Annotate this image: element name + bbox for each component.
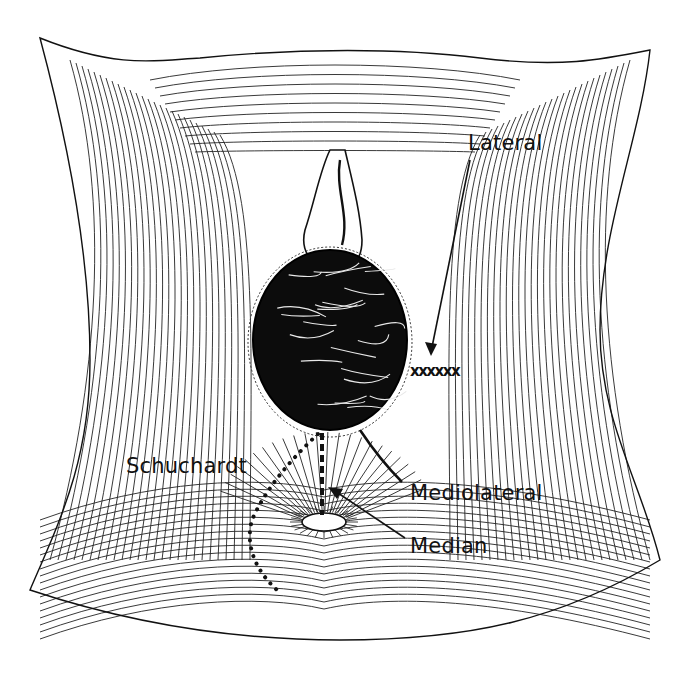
lateral-pointer-arrow	[431, 160, 470, 352]
label-lateral: Lateral	[468, 133, 542, 154]
lateral-arrowhead	[425, 342, 437, 356]
anatomical-illustration: xxxxxx	[0, 0, 685, 691]
episiotomy-diagram: xxxxxx Lateral Mediolateral Median Schuc…	[0, 0, 685, 691]
fetal-head	[248, 247, 412, 437]
mediolateral-incision	[360, 430, 402, 482]
label-mediolateral: Mediolateral	[410, 483, 543, 504]
label-schuchardt: Schuchardt	[126, 456, 247, 477]
label-median: Median	[410, 536, 488, 557]
lateral-incision: xxxxxx	[410, 362, 461, 380]
svg-text:xxxxxx: xxxxxx	[410, 362, 461, 380]
